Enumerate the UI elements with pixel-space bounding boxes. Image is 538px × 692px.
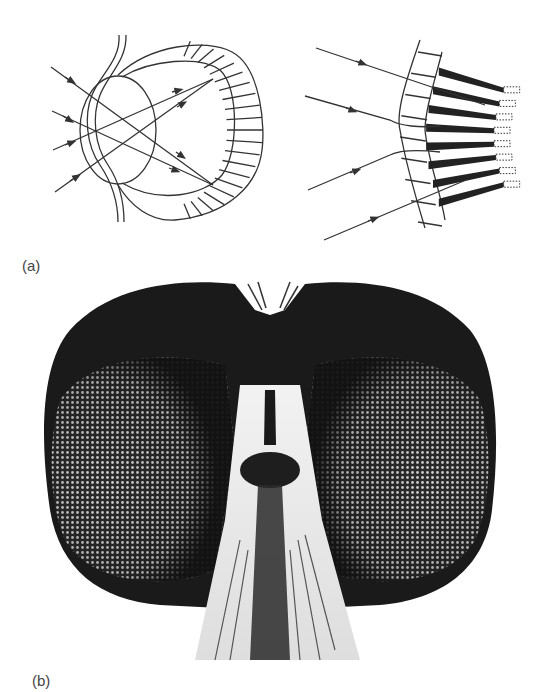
retina-cell-divider xyxy=(215,72,243,82)
retina-outer-edge xyxy=(118,45,263,220)
ommatidia xyxy=(426,67,520,206)
panel-a-diagrams xyxy=(0,0,538,260)
rhabdom xyxy=(496,154,512,160)
arrow xyxy=(172,90,180,92)
rhabdom xyxy=(494,127,510,133)
rhabdom xyxy=(496,114,512,120)
facet-divider xyxy=(411,73,436,77)
ommatidium xyxy=(439,67,504,92)
retina-cell-divider xyxy=(225,151,260,155)
retina-cell-divider xyxy=(226,117,262,119)
facet-divider xyxy=(405,180,430,184)
right-eye-shading xyxy=(305,357,488,581)
panel-b-label: (b) xyxy=(32,672,50,689)
ray xyxy=(52,111,213,185)
ray xyxy=(51,67,213,185)
ommatidium xyxy=(426,124,494,134)
retina-cell-divider xyxy=(198,49,214,62)
facet-divider xyxy=(418,222,442,226)
facet-divider xyxy=(401,116,427,120)
ray xyxy=(324,180,466,240)
facet-divider xyxy=(405,95,430,99)
rhabdom xyxy=(499,100,515,106)
retina-cell-divider xyxy=(191,201,202,215)
facet-outer-edge xyxy=(399,40,425,228)
camera-eye-diagram xyxy=(51,35,263,222)
retina-cell-divider xyxy=(215,178,243,188)
panel-b-photo xyxy=(0,270,538,692)
arrow xyxy=(176,152,183,157)
ommatidium xyxy=(429,155,496,169)
arrow xyxy=(65,77,73,82)
camera-eye-rays xyxy=(51,67,213,192)
arrow xyxy=(368,218,376,221)
ommatidium xyxy=(426,142,494,151)
ommatidium xyxy=(429,105,496,120)
retina-cell-divider xyxy=(219,82,250,90)
cornea-outer-line xyxy=(87,35,119,222)
ommatidium xyxy=(433,169,499,188)
rhabdom xyxy=(494,141,510,147)
antenna-base xyxy=(264,390,276,445)
arrow xyxy=(70,176,78,181)
retina-cell-divider xyxy=(225,105,260,109)
ommatidium xyxy=(439,182,504,206)
rhabdom xyxy=(499,168,515,174)
ray xyxy=(55,79,213,192)
rhabdom xyxy=(504,181,520,187)
facet-divider xyxy=(418,52,442,56)
face-dark-patch xyxy=(240,452,300,488)
retina-cells xyxy=(184,41,263,218)
retina-cell-divider xyxy=(223,93,256,99)
retina-cell-divider xyxy=(191,44,202,58)
ray xyxy=(53,79,213,150)
retina-cell-divider xyxy=(204,192,224,204)
facet-divider xyxy=(401,158,427,162)
rhabdom xyxy=(504,87,520,93)
retina-cell-divider xyxy=(226,140,262,142)
retina-cell-divider xyxy=(210,186,234,197)
ommatidium xyxy=(433,86,499,106)
retina-cell-divider xyxy=(198,197,214,210)
retina-cell-divider xyxy=(184,41,190,56)
ray xyxy=(305,96,440,127)
fly-head-photo xyxy=(0,270,538,660)
ray xyxy=(308,151,440,190)
lens-shape xyxy=(80,76,156,184)
compound-eye-diagram xyxy=(305,40,520,240)
left-eye-shading xyxy=(52,357,235,581)
retina-cell-divider xyxy=(184,204,190,219)
facet-divider xyxy=(400,137,426,141)
